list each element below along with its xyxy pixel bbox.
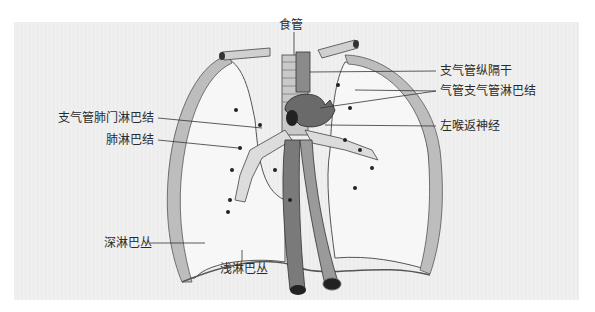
label-left-recurrent-laryngeal-nerve: 左喉返神经 <box>440 119 500 133</box>
label-pulmonary-lymph-nodes: 肺淋巴结 <box>106 133 154 147</box>
label-esophagus: 食管 <box>279 18 303 32</box>
descending-aorta <box>283 140 305 290</box>
label-bronchopulmonary-hilar-lymph-nodes: 支气管肺门淋巴结 <box>58 111 154 125</box>
esophagus <box>296 52 310 92</box>
lung-lymphatics-illustration <box>0 0 595 312</box>
label-deep-lymphatic-plexus: 深淋巴丛 <box>104 236 152 250</box>
label-bronchomediastinal-trunk: 支气管纵隔干 <box>440 64 512 78</box>
label-superficial-lymphatic-plexus: 浅淋巴丛 <box>220 262 268 276</box>
label-tracheobronchial-lymph-nodes: 气管支气管淋巴结 <box>440 84 536 98</box>
left-subclavian-vessel <box>222 48 270 60</box>
